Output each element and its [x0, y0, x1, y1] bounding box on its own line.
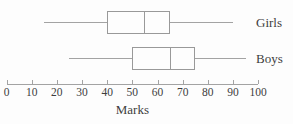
boys-series-label: Boys	[256, 51, 283, 67]
girls-left-whisker	[44, 22, 107, 23]
boys-left-whisker	[69, 58, 132, 59]
x-axis-tick	[32, 80, 33, 84]
girls-median-line	[144, 11, 145, 34]
x-axis-tick	[158, 80, 159, 84]
x-axis-tick	[57, 80, 58, 84]
girls-iqr-box	[107, 11, 170, 34]
x-axis-tick	[107, 80, 108, 84]
boys-median-line	[170, 47, 171, 70]
x-axis-tick	[82, 80, 83, 84]
x-axis-tick	[208, 80, 209, 84]
girls-series-label: Girls	[256, 15, 282, 31]
x-axis-title: Marks	[102, 103, 162, 117]
x-axis-tick-label: 100	[243, 86, 273, 98]
x-axis-tick	[7, 80, 8, 84]
x-axis-tick	[183, 80, 184, 84]
boys-iqr-box	[132, 47, 195, 70]
boys-right-whisker	[195, 58, 245, 59]
x-axis-line	[7, 84, 259, 85]
girls-right-whisker	[170, 22, 233, 23]
x-axis-tick	[233, 80, 234, 84]
x-axis-tick	[132, 80, 133, 84]
boxplot-figure: GirlsBoys0102030405060708090100Marks	[0, 0, 293, 124]
x-axis-tick	[258, 80, 259, 84]
